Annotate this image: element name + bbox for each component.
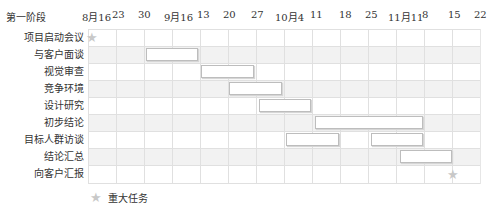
task-label: 向客户汇报 (34, 165, 84, 182)
task-bar (259, 99, 311, 112)
legend: ★重大任务 (90, 190, 148, 205)
grid-vline (312, 29, 313, 184)
grid-vline (144, 29, 145, 184)
task-label: 视觉审查 (44, 63, 84, 80)
grid-vline (340, 29, 341, 184)
milestone-star-icon: ★ (447, 168, 459, 181)
task-label: 初步结论 (44, 114, 84, 131)
grid-vline (228, 29, 229, 184)
x-tick: 13 (197, 9, 210, 20)
task-label: 结论汇总 (44, 148, 84, 165)
x-tick: 30 (138, 9, 151, 20)
x-tick: 15 (448, 9, 461, 20)
x-tick: 8月16 (82, 9, 111, 24)
task-bar (315, 116, 423, 129)
task-bar (400, 150, 452, 163)
task-bar (146, 48, 198, 61)
grid-vline (200, 29, 201, 184)
milestone-star-icon: ★ (86, 31, 98, 44)
grid-vline (116, 29, 117, 184)
x-tick: 10月4 (275, 9, 304, 24)
task-bar (201, 65, 254, 78)
x-tick: 20 (223, 9, 236, 20)
grid-vline (452, 29, 453, 184)
task-label: 设计研究 (44, 97, 84, 114)
star-icon: ★ (90, 191, 102, 204)
task-bar (229, 82, 282, 95)
grid-vline (88, 29, 89, 184)
gantt-grid: ★ ★ (88, 29, 481, 184)
x-tick: 8 (422, 9, 428, 20)
x-tick: 25 (365, 9, 378, 20)
task-label: 与客户面谈 (34, 46, 84, 63)
x-tick: 11 (310, 9, 323, 20)
x-tick: 11月11 (388, 9, 423, 24)
grid-vline (396, 29, 397, 184)
grid-vline (256, 29, 257, 184)
phase-label: 第一阶段 (6, 9, 46, 24)
task-label: 竞争环境 (44, 80, 84, 97)
x-tick: 18 (339, 9, 352, 20)
task-bar (286, 133, 339, 146)
x-tick: 27 (251, 9, 264, 20)
x-tick: 23 (112, 9, 125, 20)
task-label: 目标人群访谈 (24, 131, 84, 148)
task-bar (371, 133, 423, 146)
x-tick: 9月16 (164, 9, 193, 24)
grid-vline (368, 29, 369, 184)
task-label: 项目启动会议 (24, 29, 84, 46)
x-tick: 22 (474, 9, 487, 20)
legend-label: 重大任务 (108, 193, 148, 204)
